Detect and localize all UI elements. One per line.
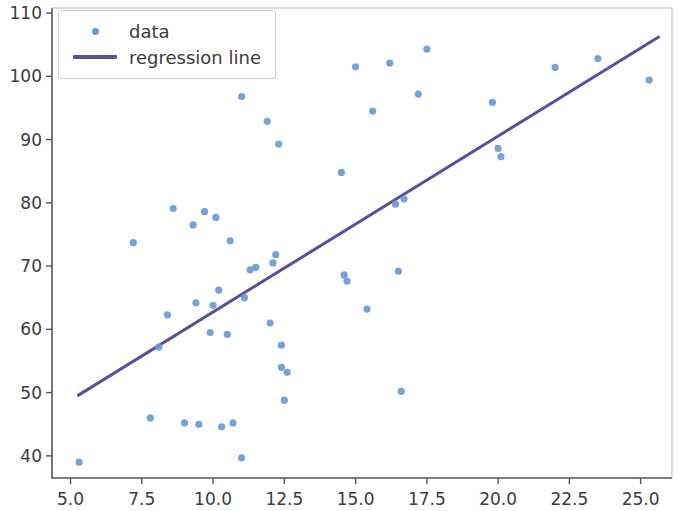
data-points-group (75, 46, 652, 466)
x-tick-label: 25.0 (622, 489, 660, 509)
x-tick-label: 20.0 (479, 489, 517, 509)
scatter-plot-figure: 405060708090100110 5.07.510.012.515.017.… (0, 0, 679, 511)
legend-label-regression-line: regression line (129, 47, 261, 68)
data-point (338, 169, 345, 176)
data-point (352, 63, 359, 70)
data-point (264, 118, 271, 125)
data-point (646, 77, 653, 84)
data-point (363, 306, 370, 313)
data-point (341, 271, 348, 278)
data-point (181, 419, 188, 426)
data-point (272, 251, 279, 258)
x-tick-label: 22.5 (550, 489, 588, 509)
data-point (190, 221, 197, 228)
data-point (209, 302, 216, 309)
data-point (207, 329, 214, 336)
data-point (398, 388, 405, 395)
data-point (147, 414, 154, 421)
legend-entry-regression-line[interactable]: regression line (69, 44, 261, 70)
y-tick-label: 80 (20, 193, 42, 213)
data-point (386, 59, 393, 66)
data-point (164, 311, 171, 318)
x-tick-label: 17.5 (408, 489, 446, 509)
data-point (252, 264, 259, 271)
x-tick-label: 12.5 (265, 489, 303, 509)
legend[interactable]: data regression line (58, 10, 276, 79)
data-point (489, 99, 496, 106)
x-tick-label: 10.0 (194, 489, 232, 509)
data-point (275, 140, 282, 147)
data-point (594, 55, 601, 62)
y-tick-label: 50 (20, 383, 42, 403)
data-point (215, 287, 222, 294)
data-point (238, 93, 245, 100)
y-tick-label: 70 (20, 256, 42, 276)
data-point (195, 421, 202, 428)
data-point (497, 153, 504, 160)
y-tick-label: 90 (20, 130, 42, 150)
data-point (400, 195, 407, 202)
legend-marker-dot-icon (69, 28, 121, 35)
data-point (224, 331, 231, 338)
y-tick-label: 40 (20, 446, 42, 466)
x-tick-label: 7.5 (128, 489, 155, 509)
data-point (495, 145, 502, 152)
x-tick-label: 15.0 (337, 489, 375, 509)
legend-entry-data[interactable]: data (69, 18, 261, 44)
data-point (281, 397, 288, 404)
data-point (170, 205, 177, 212)
data-point (227, 237, 234, 244)
data-point (238, 454, 245, 461)
y-tick-label: 60 (20, 319, 42, 339)
data-point (130, 239, 137, 246)
data-point (415, 90, 422, 97)
regression-line (79, 37, 659, 395)
data-point (266, 319, 273, 326)
data-point (192, 299, 199, 306)
data-point (343, 278, 350, 285)
data-point (552, 64, 559, 71)
data-point (392, 200, 399, 207)
data-point (369, 108, 376, 115)
x-tick-label: 5.0 (57, 489, 84, 509)
data-point (423, 46, 430, 53)
y-tick-label: 100 (10, 66, 42, 86)
data-point (284, 369, 291, 376)
data-point (218, 423, 225, 430)
data-point (201, 208, 208, 215)
data-point (395, 268, 402, 275)
data-point (75, 459, 82, 466)
data-point (269, 259, 276, 266)
data-point (229, 419, 236, 426)
data-point (212, 214, 219, 221)
data-point (155, 343, 162, 350)
data-point (278, 364, 285, 371)
data-point (278, 342, 285, 349)
axis-ticks (46, 13, 641, 484)
legend-marker-line-icon (69, 55, 121, 59)
y-tick-label: 110 (10, 3, 42, 23)
data-point (241, 294, 248, 301)
legend-label-data: data (129, 21, 170, 42)
